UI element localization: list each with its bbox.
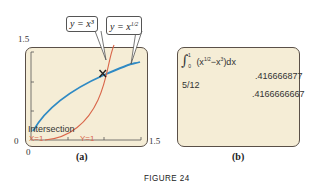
integral-result: .416666877 (255, 71, 303, 81)
callout-sqrt: y = x1/2 (106, 16, 142, 35)
y-readout: Y=1 (80, 134, 94, 143)
callout-cubic: y = x³ (66, 16, 98, 32)
x-readout: X=1 (29, 134, 43, 143)
origin-x-label: 0 (26, 147, 31, 157)
origin-y-label: 0 (14, 136, 19, 146)
caption-b: (b) (232, 151, 244, 162)
intersection-label: Intersection (28, 124, 75, 134)
y-max-label: 1.5 (18, 34, 29, 44)
sqrt-curve (33, 62, 140, 131)
integral-expression: ∫01 (x1/2−x3)dx (181, 52, 236, 69)
x-max-label: 1.5 (149, 136, 160, 146)
caption-a: (a) (76, 151, 88, 162)
fraction-input: 5/12 (182, 80, 200, 90)
figure-caption: FIGURE 24 (144, 172, 190, 183)
fraction-result: .4166666667 (252, 89, 305, 99)
